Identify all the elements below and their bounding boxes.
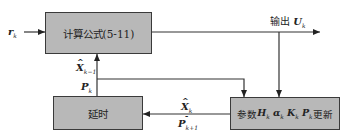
delay-block: 延时	[53, 96, 143, 130]
feedback-p-label: Pk	[81, 82, 92, 94]
compute-formula-label: 计算公式(5-11)	[63, 26, 135, 41]
output-signal-label: 输出 Uk	[270, 17, 306, 29]
symbol-k: Kk	[287, 107, 299, 120]
delay-label: 延时	[88, 106, 108, 121]
parameter-update-block: 参数 Hk αk Kk Pk 更新	[230, 97, 340, 130]
symbol-h: Hk	[257, 107, 270, 120]
compute-formula-block: 计算公式(5-11)	[45, 12, 152, 54]
loop-p-label: Pk+1	[178, 119, 198, 131]
symbol-p: Pk	[302, 107, 313, 120]
symbol-alpha: αk	[273, 107, 284, 120]
update-prefix: 参数	[237, 107, 257, 121]
update-suffix: 更新	[313, 107, 333, 121]
feedback-x-prev-label: Xk−1	[76, 63, 96, 75]
input-signal-label: rk	[8, 27, 17, 39]
